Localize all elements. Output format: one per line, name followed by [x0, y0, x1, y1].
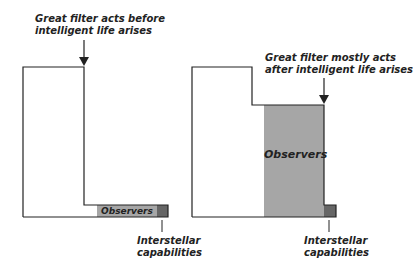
left-panel-shape	[23, 40, 168, 232]
left-annotation-bottom-line1: Interstellar	[137, 235, 202, 247]
right-annotation-bottom-line2: capabilities	[304, 247, 369, 259]
right-annotation-bottom-line1: Interstellar	[304, 235, 369, 247]
right-annotation-top: Great filter mostly acts after intellige…	[265, 52, 413, 76]
right-interstellar-bar	[324, 205, 336, 217]
left-annotation-top-line1: Great filter acts before	[35, 13, 165, 25]
left-annotation-top: Great filter acts before intelligent lif…	[35, 13, 165, 37]
right-annotation-top-line1: Great filter mostly acts	[265, 52, 413, 64]
left-top-arrowhead	[79, 57, 89, 66]
left-annotation-top-line2: intelligent life arises	[35, 25, 165, 37]
right-top-arrowhead	[319, 95, 329, 104]
left-interstellar-bar	[157, 205, 168, 217]
right-annotation-bottom: Interstellar capabilities	[304, 235, 369, 259]
left-annotation-bottom-line2: capabilities	[137, 247, 202, 259]
right-annotation-top-line2: after intelligent life arises	[265, 64, 413, 76]
right-observers-label: Observers	[264, 148, 324, 162]
left-annotation-bottom: Interstellar capabilities	[137, 235, 202, 259]
left-outline	[23, 67, 168, 217]
left-observers-label: Observers	[97, 205, 157, 217]
